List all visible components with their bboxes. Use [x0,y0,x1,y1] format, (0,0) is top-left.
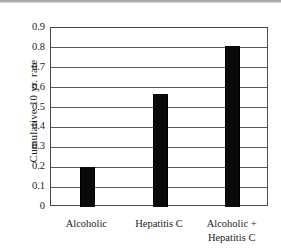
bar-chart-figure: Cumulative 10 yr. rate 0.90.80.70.60.50.… [0,0,281,251]
plot-area [50,27,268,206]
bar [80,167,95,207]
bar [153,94,168,207]
y-axis-tick-label: 0.4 [16,121,45,131]
y-axis-tick-label: 0.7 [16,62,45,72]
x-axis-tick-label-line: Hepatitis C [187,231,277,245]
y-axis-tick-label: 0.2 [16,161,45,171]
y-axis-tick-label: 0.1 [16,181,45,191]
y-axis-tick-label: 0.5 [16,102,45,112]
y-axis-tick-label: 0.6 [16,82,45,92]
x-axis-tick-label: Alcoholic +Hepatitis C [187,217,277,245]
y-axis-tick-label: 0.8 [16,42,45,52]
y-axis-tick-label: 0.9 [16,22,45,32]
y-axis-tick-label: 0.3 [16,141,45,151]
y-axis-tick-label: 0 [16,201,45,211]
x-axis-tick-label-line: Alcoholic + [187,217,277,231]
bar [225,46,240,207]
